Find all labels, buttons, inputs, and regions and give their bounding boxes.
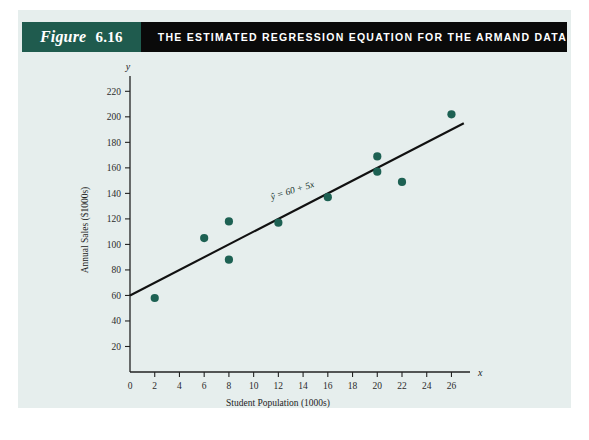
x-tick-label: 18 [348, 381, 358, 391]
data-point [274, 219, 282, 227]
x-tick-label: 8 [227, 381, 232, 391]
x-tick-label: 6 [202, 381, 207, 391]
data-point [324, 193, 332, 201]
x-axis-title: Student Population (1000s) [226, 398, 330, 408]
chart-svg: 20406080100120140160180200220y 024681012… [18, 54, 571, 408]
y-tick-label: 200 [107, 112, 122, 122]
figure-panel: Figure 6.16 THE ESTIMATED REGRESSION EQU… [18, 10, 571, 408]
x-tick-label: 12 [274, 381, 284, 391]
figure-title-band: THE ESTIMATED REGRESSION EQUATION FOR TH… [141, 22, 567, 52]
x-tick-label: 22 [397, 381, 407, 391]
data-point [225, 256, 233, 264]
x-tick-label: 2 [152, 381, 157, 391]
regression-line [130, 123, 464, 295]
y-tick-label: 80 [112, 265, 122, 275]
x-tick-label: 4 [177, 381, 182, 391]
data-point [373, 152, 381, 160]
figure-label-band: Figure 6.16 [22, 22, 141, 52]
figure-header: Figure 6.16 THE ESTIMATED REGRESSION EQU… [22, 22, 567, 52]
x-tick-label: 26 [447, 381, 457, 391]
x-axis-variable-label: x [477, 367, 483, 378]
y-axis-title: Annual Sales ($1000s) [80, 187, 91, 274]
x-tick-label: 14 [298, 381, 308, 391]
x-tick-label: 16 [323, 381, 333, 391]
x-tick-label: 10 [249, 381, 259, 391]
y-tick-label: 60 [112, 291, 122, 301]
y-tick-label: 20 [112, 342, 122, 352]
y-tick-label: 120 [107, 214, 122, 224]
figure-number: 6.16 [95, 29, 122, 46]
figure-word: Figure [40, 28, 87, 46]
regression-equation-label: ŷ = 60 + 5x [268, 179, 316, 202]
data-point [200, 234, 208, 242]
y-tick-label: 180 [107, 138, 122, 148]
x-axis: 02468101214161820222426x [128, 367, 483, 391]
y-axis-variable-label: y [125, 61, 131, 72]
y-tick-label: 140 [107, 189, 122, 199]
data-point [447, 110, 455, 118]
scatter-plot: 20406080100120140160180200220y 024681012… [18, 54, 571, 408]
y-tick-label: 40 [112, 316, 122, 326]
equation-annotation: ŷ = 60 + 5x [268, 179, 316, 202]
data-point [373, 168, 381, 176]
x-tick-label: 20 [373, 381, 383, 391]
data-point [225, 217, 233, 225]
figure-title: THE ESTIMATED REGRESSION EQUATION FOR TH… [158, 31, 567, 43]
y-axis: 20406080100120140160180200220y [107, 61, 131, 372]
y-tick-label: 100 [107, 240, 122, 250]
data-point [398, 178, 406, 186]
x-tick-label: 0 [128, 381, 133, 391]
x-tick-label: 24 [422, 381, 432, 391]
y-tick-label: 220 [107, 87, 122, 97]
y-tick-label: 160 [107, 163, 122, 173]
data-point [151, 294, 159, 302]
